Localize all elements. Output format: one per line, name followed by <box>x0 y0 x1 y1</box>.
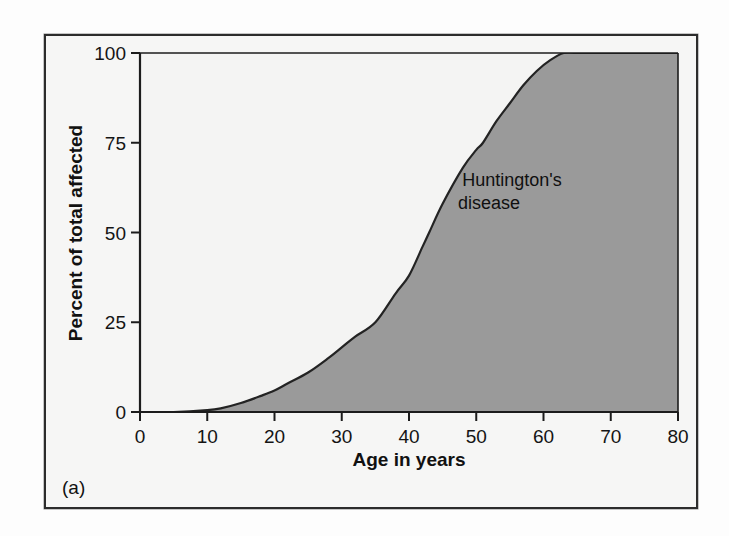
x-tick-label: 40 <box>398 426 419 447</box>
y-axis-ticks: 0255075100 <box>94 43 140 423</box>
y-tick-label: 0 <box>115 402 126 423</box>
x-tick-label: 30 <box>331 426 352 447</box>
y-tick-label: 100 <box>94 43 126 64</box>
x-tick-label: 10 <box>197 426 218 447</box>
x-tick-label: 0 <box>135 426 146 447</box>
panel-label: (a) <box>62 477 85 498</box>
chart-figure: 0255075100 01020304050607080 Percent of … <box>0 0 729 536</box>
x-tick-label: 70 <box>600 426 621 447</box>
y-tick-label: 75 <box>105 133 126 154</box>
x-tick-label: 60 <box>533 426 554 447</box>
y-axis-title: Percent of total affected <box>65 125 86 341</box>
y-tick-label: 50 <box>105 223 126 244</box>
x-axis-ticks: 01020304050607080 <box>135 412 689 447</box>
y-tick-label: 25 <box>105 312 126 333</box>
x-tick-label: 50 <box>466 426 487 447</box>
series-annotation-line1: Huntington's <box>462 170 562 190</box>
x-tick-label: 80 <box>667 426 688 447</box>
series-annotation-line2: disease <box>458 193 520 213</box>
x-axis-title: Age in years <box>353 449 466 470</box>
x-tick-label: 20 <box>264 426 285 447</box>
